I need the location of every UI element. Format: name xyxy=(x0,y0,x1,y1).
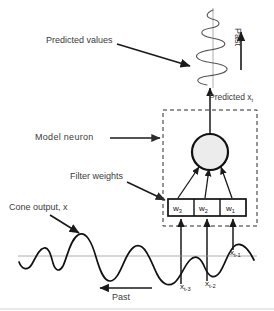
label-predicted-xt-text: Predicted x xyxy=(209,92,252,102)
label-model-neuron: Model neuron xyxy=(35,133,94,142)
sample-label-xt-1: xt-1 xyxy=(230,248,241,257)
cone-output-pointer xyxy=(50,215,79,233)
sample-label-xt-1-subscript: t-1 xyxy=(234,252,241,258)
sample-label-xt-3-subscript: t-3 xyxy=(184,286,191,292)
cone-output-waveform xyxy=(18,234,257,285)
label-predicted-xt-subscript: t xyxy=(252,97,254,103)
weight-label-w3-subscript: 3 xyxy=(179,208,182,214)
sample-label-xt-3: xt-3 xyxy=(180,282,191,291)
model-neuron-soma xyxy=(192,134,228,170)
filter-weights-pointer xyxy=(127,182,165,200)
weight-label-w3-name: w xyxy=(173,204,179,213)
diagram-graphics xyxy=(0,0,274,311)
weight-label-w2: w2 xyxy=(199,204,208,213)
predicted-values-waveform xyxy=(196,8,227,88)
label-cone-output: Cone output, x xyxy=(9,203,68,212)
weight-label-w1-subscript: 1 xyxy=(232,208,235,214)
figure-canvas: Predicted values Predicted xt Model neur… xyxy=(0,0,274,311)
label-predicted-values: Predicted values xyxy=(46,36,113,45)
dendrite-arrows xyxy=(178,167,232,198)
predicted-values-pointer xyxy=(117,44,190,66)
weight-label-w1-name: w xyxy=(226,204,232,213)
sample-label-xt-2: xt-2 xyxy=(205,279,216,288)
weight-label-w3: w3 xyxy=(173,204,182,213)
weight-label-w2-subscript: 2 xyxy=(205,208,208,214)
sample-label-xt-2-subscript: t-2 xyxy=(209,283,216,289)
input-sample-arrows xyxy=(181,219,233,284)
weight-label-w2-name: w xyxy=(199,204,205,213)
label-predicted-xt: Predicted xt xyxy=(209,93,253,102)
label-filter-weights: Filter weights xyxy=(70,172,123,181)
weight-label-w1: w1 xyxy=(226,204,235,213)
label-past-top: Past xyxy=(233,28,242,46)
label-past-bottom: Past xyxy=(112,293,130,302)
